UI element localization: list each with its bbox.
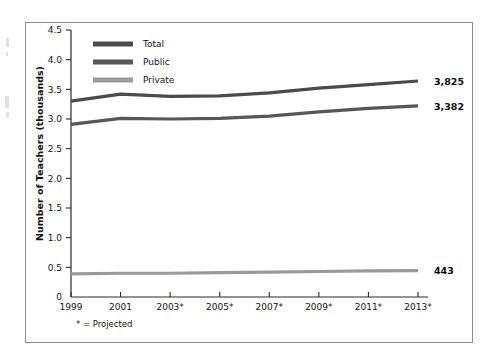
- y-axis-title: Number of Teachers (thousands): [34, 66, 45, 241]
- series-line-private: [71, 271, 418, 274]
- x-axis-tick-label: 2005*: [206, 302, 234, 312]
- y-axis-tick-label: 1.0: [48, 233, 63, 243]
- endpoint-label-total: 3,825: [434, 76, 464, 87]
- x-axis-tick-label: 2007*: [256, 302, 284, 312]
- footnote-projected: * = Projected: [76, 319, 132, 329]
- series-line-total: [71, 81, 418, 101]
- y-axis-tick-label: 3.0: [48, 114, 63, 124]
- y-axis-tick-label: 1.5: [48, 203, 62, 213]
- y-axis-tick-label: 2.5: [48, 144, 62, 154]
- line-chart: 00.51.01.52.02.53.03.54.04.5199920012003…: [0, 0, 497, 364]
- x-axis-tick-label: 2013*: [404, 302, 432, 312]
- y-axis-tick-label: 4.5: [48, 25, 62, 35]
- series-line-public: [71, 106, 418, 124]
- y-axis-tick-label: 4.0: [48, 55, 63, 65]
- legend-label-total: Total: [142, 39, 164, 49]
- endpoint-label-private: 443: [434, 265, 454, 276]
- y-axis-tick-label: 0.5: [48, 263, 62, 273]
- endpoint-label-public: 3,382: [434, 101, 464, 112]
- chart-canvas: 00.51.01.52.02.53.03.54.04.5199920012003…: [0, 0, 497, 364]
- legend-label-private: Private: [143, 75, 175, 85]
- y-axis-tick-label: 2.0: [48, 174, 63, 184]
- x-axis-tick-label: 1999: [60, 302, 83, 312]
- x-axis-tick-label: 2011*: [355, 302, 383, 312]
- y-axis-tick-label: 3.5: [48, 85, 62, 95]
- y-axis-tick-label: 0: [56, 292, 62, 302]
- legend-label-public: Public: [143, 57, 170, 67]
- x-axis-tick-label: 2001: [109, 302, 132, 312]
- x-axis-tick-label: 2003*: [156, 302, 184, 312]
- x-axis-tick-label: 2009*: [305, 302, 333, 312]
